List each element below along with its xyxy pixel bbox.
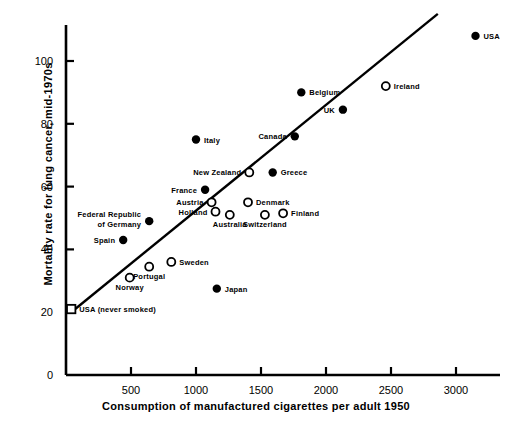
x-tick-label: 1500 (249, 384, 273, 396)
data-point[interactable]: Ireland (382, 82, 420, 91)
scatter-plot-figure: Mortality rate for lung cancer, mid-1970… (0, 0, 512, 428)
data-point[interactable]: Finland (279, 209, 319, 218)
data-point-label: Canada (259, 132, 288, 141)
x-tick-label: 2500 (379, 384, 403, 396)
filled-circle-marker (119, 236, 127, 244)
data-point[interactable]: Sweden (167, 258, 209, 267)
data-point[interactable]: USA (never smoked) (67, 305, 156, 314)
data-point[interactable]: Greece (269, 168, 308, 177)
data-point-label: Finland (291, 209, 319, 218)
data-point[interactable]: Holland (179, 208, 220, 217)
data-point[interactable]: Portugal (133, 263, 165, 281)
data-point[interactable]: France (171, 186, 209, 195)
data-point-label: Portugal (133, 272, 165, 281)
data-point-label: France (171, 186, 197, 195)
trend-line (71, 14, 438, 312)
filled-circle-marker (201, 186, 209, 194)
open-circle-marker (126, 274, 134, 282)
data-point-label: Norway (116, 283, 145, 292)
data-points: USAIrelandUKBelgiumCanadaItalyGreeceNew … (67, 32, 500, 314)
x-tick-label: 1000 (184, 384, 208, 396)
x-tick-label: 500 (122, 384, 140, 396)
data-point-label: UK (324, 106, 336, 115)
open-circle-marker (208, 198, 216, 206)
data-point-label: Spain (94, 236, 116, 245)
filled-circle-marker (291, 132, 299, 140)
data-point[interactable]: Federal Republicof Germany (78, 210, 154, 229)
data-point[interactable]: USA (471, 32, 500, 41)
filled-circle-marker (297, 88, 305, 96)
open-circle-marker (244, 198, 252, 206)
plot-canvas: 02040608010050010001500200025003000 USAI… (0, 0, 512, 428)
data-point-label: Greece (281, 168, 308, 177)
y-axis-title: Mortality rate for lung cancer, mid-1970… (42, 34, 54, 314)
data-point-label: Holland (179, 208, 208, 217)
data-point[interactable]: Spain (94, 236, 128, 245)
data-point-label: Federal Republicof Germany (78, 210, 142, 229)
data-point-label: USA (never smoked) (79, 305, 156, 314)
data-point-label: Austria (176, 198, 204, 207)
data-point-label: USA (484, 32, 501, 41)
open-circle-marker (279, 209, 287, 217)
data-point-label: Sweden (179, 258, 209, 267)
x-tick-label: 2000 (314, 384, 338, 396)
open-circle-marker (167, 258, 175, 266)
data-point[interactable]: Italy (192, 135, 221, 144)
data-point-label: Switzerland (243, 220, 287, 229)
data-point-label: New Zealand (193, 168, 241, 177)
open-circle-marker (261, 211, 269, 219)
filled-circle-marker (339, 105, 347, 113)
data-point[interactable]: Canada (259, 132, 299, 141)
data-point[interactable]: UK (324, 105, 347, 114)
open-circle-marker (212, 208, 220, 216)
data-point-label: Denmark (256, 198, 290, 207)
data-point-label: Italy (204, 136, 221, 145)
data-point[interactable]: Belgium (297, 88, 340, 97)
open-circle-marker (226, 211, 234, 219)
x-axis-title: Consumption of manufactured cigarettes p… (0, 400, 512, 412)
filled-circle-marker (192, 135, 200, 143)
y-tick-label: 0 (47, 369, 53, 381)
open-circle-marker (245, 168, 253, 176)
open-square-marker (67, 305, 75, 313)
filled-circle-marker (471, 32, 479, 40)
data-point-label: Japan (225, 285, 248, 294)
data-point[interactable]: Denmark (244, 198, 290, 207)
open-circle-marker (145, 263, 153, 271)
open-circle-marker (382, 82, 390, 90)
data-point[interactable]: Austria (176, 198, 215, 207)
filled-circle-marker (269, 168, 277, 176)
x-tick-label: 3000 (444, 384, 468, 396)
filled-circle-marker (213, 284, 221, 292)
filled-circle-marker (145, 217, 153, 225)
data-point[interactable]: Japan (213, 284, 248, 293)
data-point-label: Ireland (394, 82, 420, 91)
regression-line (71, 14, 438, 312)
data-point-label: Belgium (309, 88, 340, 97)
